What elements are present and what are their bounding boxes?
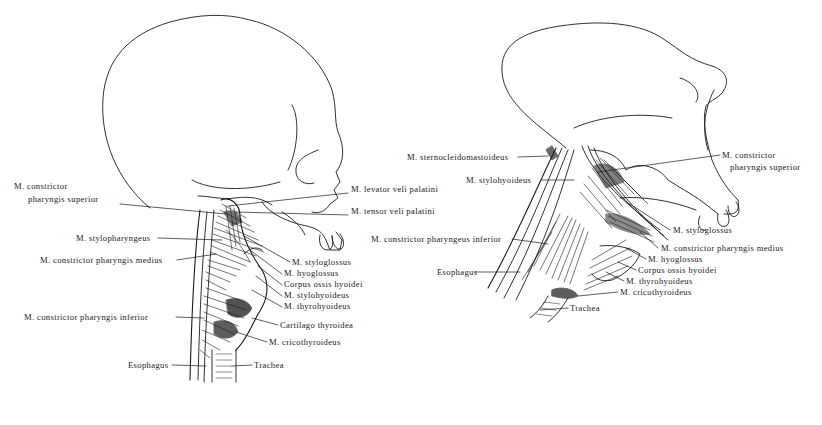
human-neck-muscles — [190, 199, 267, 382]
label-cartilago-thyroidea: Cartilago thyroidea — [280, 320, 353, 330]
label-hyoglossus: M. hyoglossus — [648, 254, 703, 264]
label-thyrohyoideus: M. thyrohyoideus — [626, 276, 693, 286]
label-constrictor-medius: M. constrictor pharyngis medius — [661, 243, 784, 253]
label-constrictor-superior-line1: M. constrictor — [722, 150, 776, 160]
label-trachea: Trachea — [570, 303, 600, 313]
label-stylohyoideus: M. stylohyoideus — [284, 290, 349, 300]
label-cricothyroideus: M. cricothyroideus — [620, 287, 692, 297]
ape-skull-outline — [502, 23, 739, 230]
label-sternocleidomastoideus: M. sternocleidomastoideus — [407, 152, 508, 162]
label-constrictor-medius: M. constrictor pharyngis medius — [40, 255, 163, 265]
label-constrictor-superior-line2: pharyngis superior — [730, 162, 801, 172]
label-esophagus: Esophagus — [128, 360, 168, 370]
label-stylohyoideus: M. stylohyoideus — [466, 175, 531, 185]
label-constrictor-inferior: M. constrictor pharyngeus inferior — [371, 234, 501, 244]
label-trachea: Trachea — [254, 360, 284, 370]
label-constrictor-superior-line2: pharyngis superior — [28, 194, 99, 204]
label-constrictor-superior-line1: M. constrictor — [14, 181, 68, 191]
label-corpus-ossis-hyoidei: Corpus ossis hyoidei — [284, 279, 363, 289]
label-levator-veli-palatini: M. levator veli palatini — [351, 184, 438, 194]
label-hyoglossus: M. hyoglossus — [284, 268, 339, 278]
label-styloglossus: M. styloglossus — [673, 225, 732, 235]
label-thyrohyoideus: M. thyrohyoideus — [284, 301, 351, 311]
label-cricothyroideus: M. cricothyroideus — [269, 337, 341, 347]
anatomy-figure: M. constrictor pharyngis superior M. lev… — [0, 0, 822, 425]
label-corpus-ossis-hyoidei: Corpus ossis hyoidei — [638, 265, 717, 275]
label-stylopharyngeus: M. stylopharyngeus — [76, 233, 151, 243]
label-esophagus: Esophagus — [437, 267, 477, 277]
label-constrictor-inferior: M. constrictor pharyngis inferior — [24, 312, 148, 322]
label-tensor-veli-palatini: M. tensor veli palatini — [351, 206, 435, 216]
label-styloglossus: M. styloglossus — [292, 257, 351, 267]
